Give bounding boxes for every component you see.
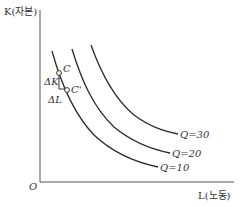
x-axis-label: L(노동)	[198, 190, 231, 201]
delta-k-label: ΔK	[43, 76, 59, 87]
curve-label-q10: Q=10	[160, 162, 190, 173]
origin-label: O	[29, 181, 37, 192]
point-c-label: C	[63, 63, 71, 74]
isoquant-q30	[91, 45, 178, 134]
point-c-prime	[65, 88, 70, 93]
isoquant-diagram: K(자본) L(노동) O C C' ΔK ΔL Q=10 Q=20 Q=30	[0, 0, 244, 207]
point-c	[57, 71, 62, 76]
curve-label-q30: Q=30	[180, 129, 210, 140]
delta-l-label: ΔL	[47, 94, 62, 105]
curve-label-q20: Q=20	[172, 148, 202, 159]
point-c-prime-label: C'	[71, 84, 81, 95]
y-axis-label: K(자본)	[4, 6, 37, 17]
